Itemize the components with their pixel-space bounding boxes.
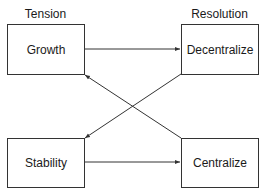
node-label: Growth [27,43,66,57]
node-label: Decentralize [187,43,254,57]
node-growth: Growth [7,24,85,75]
node-stability: Stability [7,138,85,188]
node-centralize: Centralize [181,138,259,188]
node-label: Stability [25,156,67,170]
node-decentralize: Decentralize [181,24,259,75]
node-label: Centralize [193,156,247,170]
